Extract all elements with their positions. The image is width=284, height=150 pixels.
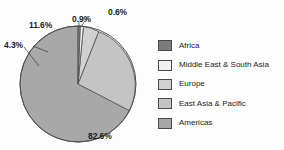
- pie-chart-figure: 0.6% 0.9% 11.6% 4.3% 82.6% Africa Middle…: [0, 0, 284, 150]
- legend-swatch-americas: [158, 118, 172, 129]
- legend-swatch-east-asia-pacific: [158, 98, 172, 109]
- legend-label-americas: Americas: [179, 119, 212, 127]
- pie-plot-area: 0.6% 0.9% 11.6% 4.3% 82.6%: [0, 0, 155, 150]
- legend-item-europe[interactable]: Europe: [158, 75, 284, 94]
- legend-swatch-europe: [158, 79, 172, 90]
- legend-swatch-africa: [158, 40, 172, 51]
- legend-item-east-asia-pacific[interactable]: East Asia & Pacific: [158, 94, 284, 113]
- pie-label-africa: 0.6%: [108, 7, 127, 17]
- chart-legend: Africa Middle East & South Asia Europe E…: [158, 36, 284, 133]
- legend-label-europe: Europe: [179, 80, 205, 88]
- pie-slices: [20, 26, 135, 142]
- pie-label-east-asia-pacific: 11.6%: [29, 20, 52, 30]
- legend-label-middle-east-south-asia: Middle East & South Asia: [179, 61, 269, 69]
- pie-label-americas: 82.6%: [88, 131, 112, 141]
- legend-item-africa[interactable]: Africa: [158, 36, 284, 55]
- legend-label-east-asia-pacific: East Asia & Pacific: [179, 100, 246, 108]
- legend-swatch-middle-east-south-asia: [158, 60, 172, 71]
- legend-item-americas[interactable]: Americas: [158, 114, 284, 133]
- pie-label-middle-east-south-asia: 0.9%: [72, 14, 91, 24]
- pie-label-europe: 4.3%: [4, 40, 23, 50]
- legend-item-middle-east-south-asia[interactable]: Middle East & South Asia: [158, 55, 284, 74]
- legend-label-africa: Africa: [179, 42, 199, 50]
